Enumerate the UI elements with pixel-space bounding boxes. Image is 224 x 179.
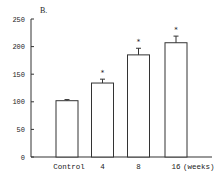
y-axis: 050100150200250 (12, 16, 34, 162)
x-category-label: 16 (171, 163, 181, 171)
bar (56, 101, 78, 157)
bar-group: Control (53, 100, 85, 171)
significance-marker: * (174, 26, 178, 34)
bars: Control*4*8*16 (53, 26, 187, 171)
bar (165, 43, 187, 157)
y-tick-label: 50 (17, 126, 25, 134)
significance-marker: * (137, 38, 141, 46)
y-tick-label: 250 (12, 16, 25, 24)
significance-marker: * (101, 69, 105, 77)
x-axis-unit-label: (weeks) (183, 163, 215, 171)
y-tick-label: 100 (12, 98, 25, 106)
y-tick-label: 150 (12, 71, 25, 79)
bar-group: *4 (92, 69, 114, 171)
y-tick-label: 200 (12, 43, 25, 51)
x-category-label: Control (53, 163, 85, 171)
bar (92, 83, 114, 157)
bar-group: *8 (128, 38, 150, 171)
x-category-label: 8 (136, 163, 141, 171)
bar-chart: B. 050100150200250 Control*4*8*16 (weeks… (0, 0, 224, 179)
x-category-label: 4 (100, 163, 105, 171)
bar-group: *16 (165, 26, 187, 171)
bar (128, 55, 150, 157)
y-tick-label: 0 (21, 154, 25, 162)
panel-label: B. (40, 6, 47, 15)
